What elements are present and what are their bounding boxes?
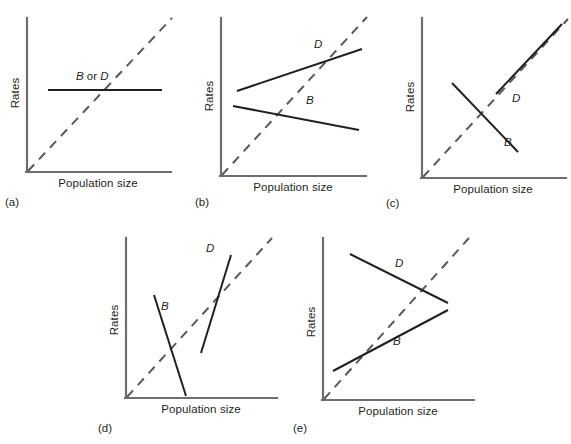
x-axis-label: Population size [326,405,470,417]
panel-e: D B Rates Population size (e) [290,222,490,444]
reference-diagonal [28,18,172,171]
y-axis-label: Rates [404,76,416,118]
y-axis-label: Rates [108,299,120,341]
curve-label-d: D [512,92,520,104]
curve-label-b-or-d: B or D [76,70,109,82]
curve-label-d: D [206,242,214,254]
line-d [201,255,231,353]
x-axis-label: Population size [222,181,364,193]
x-axis-label: Population size [28,177,168,189]
reference-diagonal [423,19,568,177]
panel-letter-c: (c) [386,197,399,209]
y-axis-label: Rates [9,72,21,114]
y-axis-label: Rates [203,75,215,117]
curve-label-d: D [314,38,322,50]
panel-b: D B Rates Population size (b) [190,0,380,215]
panel-d: B D Rates Population size (d) [95,222,295,444]
panel-letter-b: (b) [195,196,209,208]
line-b [154,295,186,396]
curve-label-b: B [306,94,314,106]
line-b [233,106,359,130]
curve-label-d: D [395,257,403,269]
line-d [237,49,362,91]
panel-letter-e: (e) [293,422,307,434]
reference-diagonal [222,17,367,175]
panel-letter-d: (d) [98,422,112,434]
panel-a: B or D Rates Population size (a) [0,0,190,215]
y-axis-label: Rates [305,301,317,343]
panel-letter-a: (a) [5,196,19,208]
reference-diagonal [127,238,272,397]
curve-label-b: B [393,335,401,347]
curve-label-b: B [161,300,169,312]
figure-root: B or D Rates Population size (a) D B Rat… [0,0,571,444]
panel-c: D B Rates Population size (c) [380,0,571,215]
x-axis-label: Population size [129,403,273,415]
line-d [496,24,562,94]
line-b [333,310,448,371]
x-axis-label: Population size [422,183,564,195]
curve-label-b: B [504,136,512,148]
